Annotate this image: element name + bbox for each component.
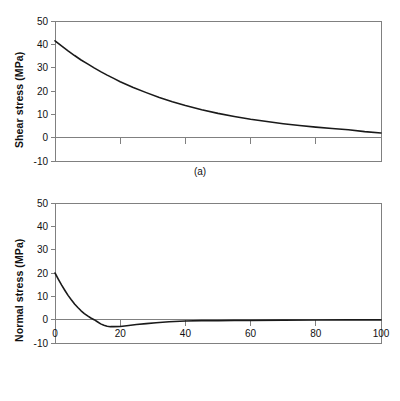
- y-tick-label: -10: [34, 338, 49, 349]
- panel-caption-a: (a): [0, 166, 400, 177]
- y-tick-label: 40: [37, 221, 49, 232]
- y-tick-label: 10: [37, 109, 49, 120]
- plot-area-b: -1001020304050020406080100: [0, 190, 400, 401]
- x-tick-label: 80: [310, 328, 322, 339]
- x-tick-label: 100: [373, 328, 390, 339]
- y-tick-label: 50: [37, 198, 49, 209]
- figure-stress-distribution: Shear stress (MPa) -1001020304050 (a) No…: [0, 0, 400, 401]
- data-series-line: [55, 273, 381, 327]
- y-tick-label: 30: [37, 244, 49, 255]
- x-tick-label: 40: [180, 328, 192, 339]
- x-tick-label: 0: [52, 328, 58, 339]
- y-tick-label: 0: [42, 132, 48, 143]
- y-tick-label: 30: [37, 62, 49, 73]
- y-tick-label: 50: [37, 16, 49, 27]
- x-tick-label: 60: [245, 328, 257, 339]
- chart-panel-b: Normal stress (MPa) -1001020304050020406…: [0, 190, 400, 401]
- chart-panel-a: Shear stress (MPa) -1001020304050 (a): [0, 0, 400, 190]
- y-tick-label: 10: [37, 291, 49, 302]
- y-tick-label: 40: [37, 39, 49, 50]
- y-tick-label: 0: [42, 314, 48, 325]
- x-tick-label: 20: [115, 328, 127, 339]
- plot-area-a: -1001020304050: [0, 0, 400, 190]
- y-tick-label: 20: [37, 268, 49, 279]
- data-series-line: [55, 41, 381, 133]
- y-tick-label: 20: [37, 86, 49, 97]
- y-tick-label: -10: [34, 156, 49, 167]
